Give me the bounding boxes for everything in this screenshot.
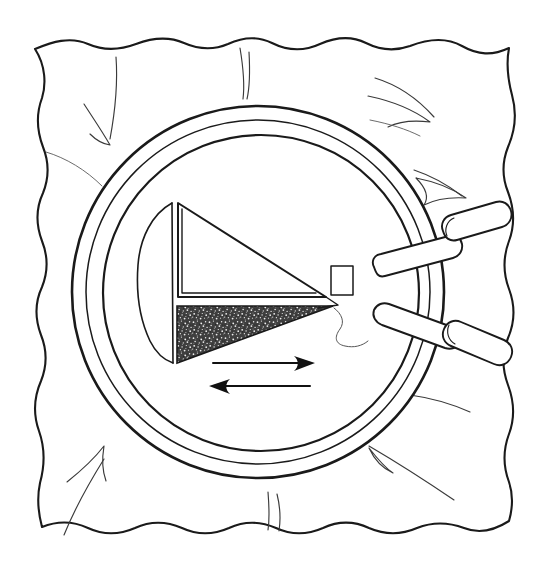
illustration-canvas: Surgical illustration: draped operative … xyxy=(0,0,547,585)
apex-marker-box xyxy=(331,266,353,295)
illustration-svg xyxy=(0,0,547,585)
shell-spine xyxy=(172,203,173,363)
